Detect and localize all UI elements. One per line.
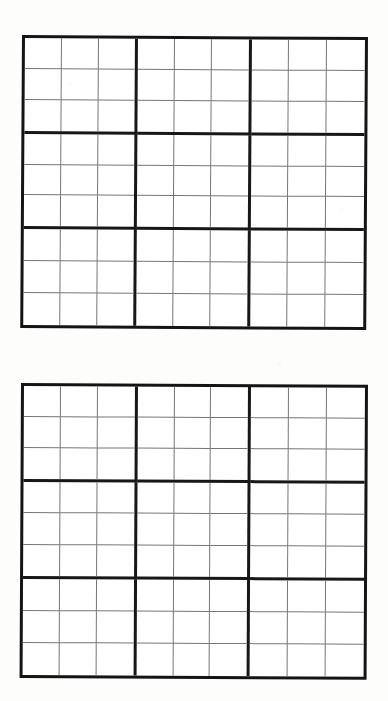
sudoku-cell[interactable] [61,417,98,448]
sudoku-cell[interactable] [25,69,62,100]
sudoku-cell[interactable] [136,643,173,675]
sudoku-cell[interactable] [326,515,364,546]
sudoku-cell[interactable] [60,261,97,293]
sudoku-cell[interactable] [289,101,327,132]
sudoku-cell[interactable] [97,449,134,480]
sudoku-cell[interactable] [250,612,288,644]
sudoku-cell[interactable] [97,483,134,514]
sudoku-cell[interactable] [24,100,61,131]
sudoku-cell[interactable] [251,166,289,197]
sudoku-cell[interactable] [327,419,365,450]
sudoku-cell[interactable] [61,165,98,196]
sudoku-cell[interactable] [326,612,364,644]
sudoku-cell[interactable] [97,514,134,545]
sudoku-cell[interactable] [97,230,134,262]
sudoku-cell[interactable] [211,514,248,545]
sudoku-cell[interactable] [137,514,174,545]
sudoku-cell[interactable] [174,483,211,514]
sudoku-cell[interactable] [174,545,211,576]
sudoku-cell[interactable] [251,101,289,132]
sudoku-cell[interactable] [288,263,326,295]
sudoku-cell[interactable] [251,515,289,546]
sudoku-cell[interactable] [326,263,364,295]
sudoku-cell[interactable] [251,449,289,480]
sudoku-cell[interactable] [174,387,211,418]
sudoku-cell[interactable] [60,545,97,576]
sudoku-cell[interactable] [289,484,327,515]
sudoku-cell[interactable] [210,545,247,576]
sudoku-cell[interactable] [250,546,288,577]
sudoku-cell[interactable] [24,417,61,448]
sudoku-cell[interactable] [23,579,60,611]
sudoku-cell[interactable] [173,294,210,326]
sudoku-cell[interactable] [288,580,326,612]
sudoku-cell[interactable] [98,69,135,100]
sudoku-cell[interactable] [175,39,212,70]
sudoku-cell[interactable] [60,230,97,262]
sudoku-cell[interactable] [251,39,289,70]
sudoku-cell[interactable] [210,612,247,644]
sudoku-cell[interactable] [97,294,134,326]
sudoku-cell[interactable] [138,134,175,165]
sudoku-cell[interactable] [96,643,133,675]
sudoku-cell[interactable] [137,294,174,326]
sudoku-cell[interactable] [97,545,134,576]
sudoku-cell[interactable] [251,483,289,514]
sudoku-cell[interactable] [173,612,210,644]
sudoku-cell[interactable] [212,39,249,70]
sudoku-grid-1[interactable] [20,35,368,330]
sudoku-cell[interactable] [137,418,174,449]
sudoku-cell[interactable] [98,134,135,165]
sudoku-cell[interactable] [211,197,248,228]
sudoku-cell[interactable] [288,197,326,228]
sudoku-cell[interactable] [251,418,289,449]
sudoku-cell[interactable] [174,196,211,227]
sudoku-cell[interactable] [24,229,61,261]
sudoku-cell[interactable] [23,513,60,544]
sudoku-cell[interactable] [61,386,98,417]
sudoku-cell[interactable] [211,101,248,132]
sudoku-cell[interactable] [251,135,289,166]
sudoku-cell[interactable] [23,643,60,675]
sudoku-cell[interactable] [23,293,60,325]
sudoku-cell[interactable] [326,166,364,197]
sudoku-cell[interactable] [97,262,134,294]
sudoku-cell[interactable] [60,579,97,611]
sudoku-cell[interactable] [210,262,247,294]
sudoku-cell[interactable] [250,231,288,263]
sudoku-cell[interactable] [210,580,247,612]
sudoku-cell[interactable] [137,230,174,262]
sudoku-cell[interactable] [327,71,365,102]
sudoku-cell[interactable] [289,387,327,418]
sudoku-cell[interactable] [174,230,211,262]
sudoku-cell[interactable] [288,231,326,263]
sudoku-cell[interactable] [61,196,98,227]
sudoku-cell[interactable] [174,418,211,449]
sudoku-cell[interactable] [327,102,365,133]
sudoku-cell[interactable] [288,295,326,327]
sudoku-cell[interactable] [210,644,247,676]
sudoku-cell[interactable] [288,546,326,577]
sudoku-cell[interactable] [137,165,174,196]
sudoku-cell[interactable] [59,643,96,675]
sudoku-cell[interactable] [61,69,98,100]
sudoku-cell[interactable] [97,417,134,448]
sudoku-cell[interactable] [137,545,174,576]
sudoku-cell[interactable] [288,166,326,197]
sudoku-cell[interactable] [210,294,247,326]
sudoku-cell[interactable] [137,483,174,514]
sudoku-cell[interactable] [98,100,135,131]
sudoku-cell[interactable] [174,135,211,166]
sudoku-grid-2[interactable] [20,383,368,680]
sudoku-cell[interactable] [288,612,326,644]
sudoku-cell[interactable] [24,195,61,226]
sudoku-cell[interactable] [60,611,97,643]
sudoku-cell[interactable] [23,261,60,293]
sudoku-cell[interactable] [60,483,97,514]
sudoku-cell[interactable] [137,579,174,611]
sudoku-cell[interactable] [211,70,248,101]
sudoku-cell[interactable] [326,580,364,612]
sudoku-cell[interactable] [61,100,98,131]
sudoku-cell[interactable] [138,70,175,101]
sudoku-cell[interactable] [211,449,248,480]
